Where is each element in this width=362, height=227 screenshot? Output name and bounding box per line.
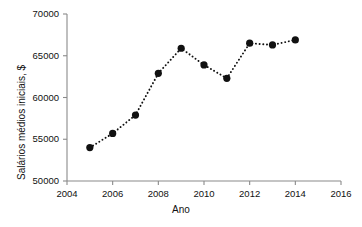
x-axis-tick-label: 2012 bbox=[239, 189, 260, 199]
data-point-marker[interactable] bbox=[178, 45, 185, 52]
data-point-marker[interactable] bbox=[269, 41, 276, 48]
chart-canvas bbox=[0, 0, 362, 227]
y-axis-title: Salários médios iniciais, $ bbox=[16, 65, 27, 180]
x-axis-tick-label: 2004 bbox=[56, 189, 77, 199]
x-axis-tick-label: 2016 bbox=[330, 189, 351, 199]
data-point-marker[interactable] bbox=[246, 40, 253, 47]
data-point-marker[interactable] bbox=[155, 70, 162, 77]
data-point-marker[interactable] bbox=[292, 36, 299, 43]
y-axis-tick-label: 70000 bbox=[18, 9, 59, 19]
x-axis-tick-label: 2008 bbox=[148, 189, 169, 199]
x-axis-tick-label: 2014 bbox=[285, 189, 306, 199]
data-point-marker[interactable] bbox=[109, 130, 116, 137]
data-point-marker[interactable] bbox=[200, 61, 207, 68]
data-point-marker[interactable] bbox=[223, 75, 230, 82]
chart-screenshot: 5000055000600006500070000 20042006200820… bbox=[0, 0, 362, 227]
y-axis-tick-label: 65000 bbox=[18, 51, 59, 61]
data-point-marker[interactable] bbox=[86, 144, 93, 151]
x-axis-title: Ano bbox=[0, 204, 362, 215]
x-axis-tick-label: 2006 bbox=[102, 189, 123, 199]
data-line bbox=[90, 40, 295, 148]
data-point-marker[interactable] bbox=[132, 111, 139, 118]
x-axis-tick-label: 2010 bbox=[193, 189, 214, 199]
plot-area bbox=[0, 0, 362, 227]
